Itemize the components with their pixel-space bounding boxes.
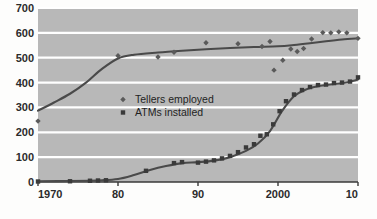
- chart-plot: 0100200300400500600700 19708090200010 Te…: [0, 0, 377, 219]
- data-point-marker: [212, 158, 216, 162]
- data-point-marker: [284, 99, 288, 103]
- data-point-marker: [340, 80, 344, 84]
- y-tick-label: 400: [16, 77, 34, 89]
- y-axis-tick-labels: 0100200300400500600700: [16, 2, 34, 188]
- data-point-marker: [324, 82, 328, 86]
- y-tick-label: 600: [16, 27, 34, 39]
- x-tick-label: 1970: [38, 188, 62, 200]
- data-point-marker: [348, 79, 352, 83]
- data-point-marker: [96, 178, 100, 182]
- data-point-marker: [292, 92, 296, 96]
- data-point-marker: [332, 81, 336, 85]
- data-point-marker: [196, 160, 200, 164]
- y-tick-label: 700: [16, 2, 34, 14]
- x-tick-label: 80: [112, 188, 124, 200]
- data-point-marker: [252, 142, 256, 146]
- y-tick-label: 300: [16, 101, 34, 113]
- data-point-marker: [308, 85, 312, 89]
- data-point-marker: [172, 161, 176, 165]
- data-point-marker: [271, 122, 275, 126]
- data-point-marker: [104, 178, 108, 182]
- legend-label: ATMs installed: [135, 106, 203, 118]
- y-tick-label: 200: [16, 126, 34, 138]
- y-tick-label: 100: [16, 151, 34, 163]
- x-tick-label: 90: [192, 188, 204, 200]
- x-axis-tick-labels: 19708090200010: [38, 188, 358, 200]
- legend-marker-square: [121, 110, 125, 114]
- y-tick-label: 500: [16, 52, 34, 64]
- data-point-marker: [68, 179, 72, 183]
- chart-legend: Tellers employedATMs installed: [120, 93, 214, 118]
- data-point-marker: [300, 88, 304, 92]
- chart-container: 0100200300400500600700 19708090200010 Te…: [0, 0, 377, 219]
- data-point-marker: [277, 109, 281, 113]
- data-point-marker: [204, 159, 208, 163]
- data-point-marker: [220, 156, 224, 160]
- data-point-marker: [258, 134, 262, 138]
- data-point-marker: [88, 179, 92, 183]
- data-point-marker: [144, 169, 148, 173]
- data-point-marker: [244, 145, 248, 149]
- data-point-marker: [228, 154, 232, 158]
- data-point-marker: [316, 83, 320, 87]
- data-point-marker: [236, 150, 240, 154]
- x-tick-label: 2000: [266, 188, 290, 200]
- data-point-marker: [180, 160, 184, 164]
- legend-label: Tellers employed: [135, 93, 214, 105]
- data-point-marker: [36, 179, 40, 183]
- data-point-marker: [265, 132, 269, 136]
- x-tick-label: 10: [346, 188, 358, 200]
- data-point-marker: [356, 75, 360, 79]
- y-tick-label: 0: [28, 176, 34, 188]
